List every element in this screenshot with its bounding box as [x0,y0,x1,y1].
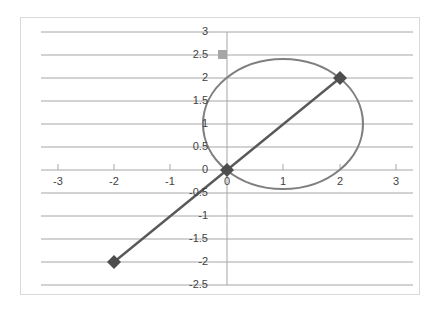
point-marker-series [218,50,227,59]
y-tick-label-0: 0 [178,164,208,175]
axes [41,32,413,285]
y-tick-label-neg0_5: -0.5 [178,187,208,198]
y-tick-label-2_5: 2.5 [178,49,208,60]
y-tick-label-1_5: 1.5 [178,95,208,106]
x-tick-label-2: 2 [325,176,355,187]
y-tick-label-0_5: 0.5 [178,141,208,152]
x-tick-label-1: 1 [268,176,298,187]
y-tick-label-neg2: -2 [178,256,208,267]
y-tick-label-neg1: -1 [178,210,208,221]
chart-container: 3 2.5 2 1.5 1 0.5 0 -0.5 -1 -1.5 -2 -2.5… [0,0,442,312]
y-tick-label-neg2_5: -2.5 [178,279,208,290]
square-marker [218,50,227,59]
chart-graphics [0,0,442,312]
y-tick-label-1: 1 [178,118,208,129]
x-tick-label-3: 3 [381,176,411,187]
x-tick-label-neg3: -3 [43,176,73,187]
x-tick-label-neg2: -2 [99,176,129,187]
y-tick-label-neg1_5: -1.5 [178,233,208,244]
y-tick-label-3: 3 [178,26,208,37]
x-tick-label-0: 0 [212,176,242,187]
y-tick-label-2: 2 [178,72,208,83]
x-tick-label-neg1: -1 [155,176,185,187]
